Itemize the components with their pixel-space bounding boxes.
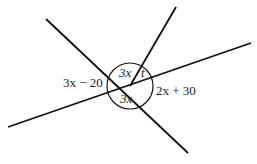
label-left: 3x − 20: [63, 75, 103, 90]
label-top: 3x: [118, 65, 132, 80]
angle-diagram: 3x − 20 3x t 2x + 30 3x: [0, 0, 257, 164]
label-right: 2x + 30: [156, 83, 196, 98]
label-bottom: 3x: [119, 91, 133, 106]
line-b: [130, 7, 176, 86]
label-top-right: t: [141, 65, 145, 80]
line-c: [8, 43, 251, 127]
